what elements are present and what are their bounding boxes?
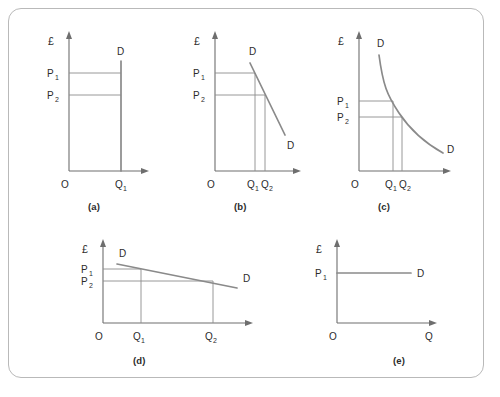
demand-label-c-bottom: D <box>447 144 454 155</box>
origin-label-b: O <box>207 179 215 190</box>
caption-e: (e) <box>393 355 405 366</box>
quantity-label-q2-sub-b: 2 <box>269 185 273 192</box>
currency-label-a: £ <box>48 35 54 47</box>
price-label-p2-sub-b: 2 <box>201 96 205 103</box>
figure-frame: £ D P 1 P 2 O Q 1 (a) £ D D P <box>8 8 484 378</box>
y-axis-arrow-icon <box>66 31 72 39</box>
x-axis-arrow-icon <box>141 168 149 174</box>
quantity-label-q1-sub-c: 1 <box>393 185 397 192</box>
price-label-p1-d: P <box>81 264 88 275</box>
quantity-label-q1-sub-a: 1 <box>123 185 127 192</box>
demand-curve-c <box>379 55 443 153</box>
chart-b: £ D D P 1 P 2 O Q 1 Q 2 <box>177 23 327 183</box>
currency-label-d: £ <box>82 243 88 255</box>
quantity-label-q2-b: Q <box>261 179 269 190</box>
x-axis-arrow-icon <box>245 320 253 326</box>
caption-d: (d) <box>133 355 145 366</box>
price-label-p2-sub-d: 2 <box>89 282 93 289</box>
panel-c: £ D D P 1 P 2 O Q 1 Q 2 (c) <box>321 23 476 183</box>
price-label-p1-sub-c: 1 <box>345 102 349 109</box>
price-label-p2-b: P <box>193 90 200 101</box>
panel-b: £ D D P 1 P 2 O Q 1 Q 2 (b) <box>177 23 327 183</box>
demand-label-b-bottom: D <box>287 140 294 151</box>
y-axis-arrow-icon <box>212 31 218 39</box>
chart-c: £ D D P 1 P 2 O Q 1 Q 2 <box>321 23 476 183</box>
currency-label-c: £ <box>338 35 344 47</box>
origin-label-e: O <box>329 331 337 342</box>
quantity-label-q1-sub-d: 1 <box>141 337 145 344</box>
y-axis-arrow-icon <box>356 31 362 39</box>
chart-e: £ D P 1 O Q <box>299 231 474 341</box>
origin-label-d: O <box>95 331 103 342</box>
chart-a: £ D P 1 P 2 O Q 1 <box>31 23 181 183</box>
quantity-label-q1-a: Q <box>115 179 123 190</box>
demand-label-e-right: D <box>417 268 424 279</box>
price-label-p2-c: P <box>337 112 344 123</box>
demand-curve-d <box>117 264 237 288</box>
panel-d: £ D D P 1 P 2 O Q 1 Q 2 (d) <box>65 231 280 341</box>
price-label-p2-sub-c: 2 <box>345 118 349 125</box>
quantity-axis-label-e: Q <box>425 331 433 342</box>
price-label-p2-d: P <box>81 276 88 287</box>
x-axis-arrow-icon <box>293 168 301 174</box>
x-axis-arrow-icon <box>443 168 451 174</box>
price-label-p1-sub-b: 1 <box>201 74 205 81</box>
price-label-p2-sub-a: 2 <box>55 96 59 103</box>
chart-d: £ D D P 1 P 2 O Q 1 Q 2 <box>65 231 280 341</box>
y-axis-arrow-icon <box>334 239 340 247</box>
panel-a: £ D P 1 P 2 O Q 1 (a) <box>31 23 181 183</box>
quantity-label-q1-b: Q <box>247 179 255 190</box>
price-label-p1-sub-d: 1 <box>89 270 93 277</box>
demand-label-c-top: D <box>377 38 384 49</box>
currency-label-e: £ <box>316 243 322 255</box>
origin-label-c: O <box>351 179 359 190</box>
quantity-label-q2-sub-c: 2 <box>407 185 411 192</box>
demand-label-d-right: D <box>243 273 250 284</box>
quantity-label-q1-c: Q <box>385 179 393 190</box>
price-label-p1-e: P <box>315 268 322 279</box>
price-label-p1-a: P <box>47 68 54 79</box>
demand-label-d-top: D <box>119 248 126 259</box>
caption-c: (c) <box>378 201 390 212</box>
panel-e: £ D P 1 O Q (e) <box>299 231 474 341</box>
currency-label-b: £ <box>194 35 200 47</box>
demand-label-b-top: D <box>249 46 256 57</box>
quantity-label-q2-sub-d: 2 <box>213 337 217 344</box>
price-label-p1-c: P <box>337 96 344 107</box>
x-axis-arrow-icon <box>429 320 437 326</box>
quantity-label-q1-sub-b: 1 <box>255 185 259 192</box>
caption-b: (b) <box>234 201 246 212</box>
origin-label-a: O <box>61 179 69 190</box>
demand-label-a-top: D <box>117 46 124 57</box>
price-label-p1-sub-e: 1 <box>323 274 327 281</box>
price-label-p2-a: P <box>47 90 54 101</box>
quantity-label-q1-d: Q <box>133 331 141 342</box>
quantity-label-q2-c: Q <box>399 179 407 190</box>
quantity-label-q2-d: Q <box>205 331 213 342</box>
price-label-p1-b: P <box>193 68 200 79</box>
caption-a: (a) <box>88 201 100 212</box>
y-axis-arrow-icon <box>100 239 106 247</box>
price-label-p1-sub-a: 1 <box>55 74 59 81</box>
